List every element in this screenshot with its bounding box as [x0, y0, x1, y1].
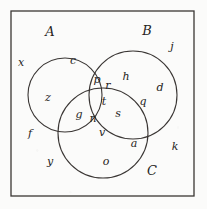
element-label: o	[103, 156, 110, 167]
element-label: z	[45, 92, 51, 103]
element-label: c	[70, 55, 76, 66]
set-label-c: C	[147, 164, 157, 177]
element-label: v	[99, 127, 105, 138]
element-label: a	[131, 138, 138, 149]
element-label: k	[172, 141, 179, 152]
element-label: h	[122, 71, 129, 82]
element-label: n	[89, 113, 96, 124]
element-label: g	[75, 109, 82, 120]
element-label: d	[156, 82, 163, 93]
set-label-a: A	[45, 25, 54, 38]
element-label: f	[28, 128, 32, 139]
element-label: q	[139, 96, 146, 107]
element-label: j	[170, 41, 173, 52]
set-label-b: B	[142, 24, 152, 37]
element-label: x	[18, 57, 24, 68]
element-label: p	[93, 74, 100, 85]
element-label: r	[105, 80, 110, 91]
element-label: s	[115, 108, 121, 119]
element-label: t	[102, 96, 106, 107]
element-label: y	[47, 156, 53, 167]
venn-diagram-figure: A B C x c z f y j h d q k p r t g n s v …	[0, 0, 207, 209]
